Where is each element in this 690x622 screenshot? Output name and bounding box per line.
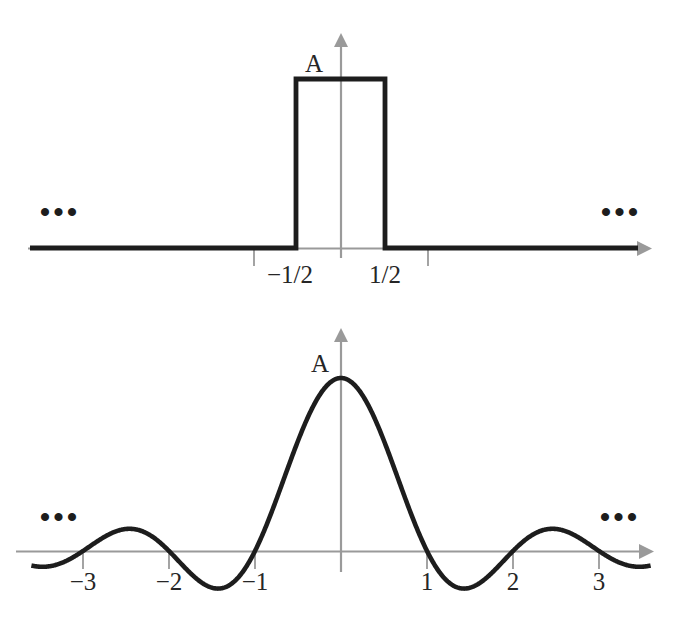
pulse-y-axis-arrowhead (334, 33, 348, 47)
pulse-curve (30, 79, 638, 248)
sinc-xtick-label-neg2: −2 (156, 568, 183, 595)
sinc-ellipsis-right: ••• (600, 500, 641, 533)
sinc-xtick-label-neg3: −3 (70, 568, 97, 595)
pulse-x-axis-arrowhead (637, 241, 652, 256)
sinc-amplitude-label: A (311, 350, 329, 377)
sinc-xtick-label-neg1: −1 (242, 568, 269, 595)
sinc-xtick-label-pos2: 2 (507, 568, 520, 595)
sinc-xtick-label-pos3: 3 (593, 568, 606, 595)
chart-rectangular-pulse: A −1/2 1/2 ••• ••• (28, 33, 652, 288)
pulse-ellipsis-left: ••• (40, 195, 81, 228)
pulse-xtick-label-neg-half: −1/2 (267, 261, 313, 288)
figure-svg: A −1/2 1/2 ••• ••• A (0, 0, 690, 622)
sinc-ellipsis-left: ••• (40, 500, 81, 533)
sinc-x-axis-arrowhead (639, 544, 654, 559)
sinc-xtick-label-pos1: 1 (421, 568, 434, 595)
pulse-ellipsis-right: ••• (601, 195, 642, 228)
figure-container: A −1/2 1/2 ••• ••• A (0, 0, 690, 622)
pulse-xtick-label-pos-half: 1/2 (369, 261, 401, 288)
chart-sinc-function: A −3 −2 −1 1 2 3 ••• ••• (16, 328, 654, 595)
pulse-amplitude-label: A (305, 50, 323, 77)
sinc-y-axis-arrowhead (334, 328, 348, 342)
